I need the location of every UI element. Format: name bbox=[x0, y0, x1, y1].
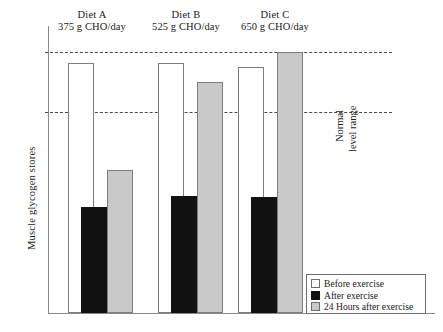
normal-level-range-line-2: level range bbox=[347, 106, 360, 152]
group-name: Diet A bbox=[50, 9, 134, 21]
chart-figure: Diet A 375 g CHO/day Diet B 525 g CHO/da… bbox=[0, 0, 443, 332]
bar-diet-b-24-hours-after-exercise bbox=[197, 82, 223, 313]
group-header-diet-c: Diet C 650 g CHO/day bbox=[233, 9, 317, 34]
normal-level-range-caption-second: level range bbox=[347, 106, 360, 152]
legend-label: Before exercise bbox=[324, 278, 384, 289]
bar-diet-c-24-hours-after-exercise bbox=[277, 52, 303, 313]
y-axis-title: Muscle glycogen stores bbox=[26, 146, 37, 250]
group-header-diet-a: Diet A 375 g CHO/day bbox=[50, 9, 134, 34]
group-dose: 650 g CHO/day bbox=[233, 21, 317, 33]
group-dose: 525 g CHO/day bbox=[144, 21, 228, 33]
normal-range-upper-line bbox=[45, 52, 392, 53]
bar-diet-a-24-hours-after-exercise bbox=[107, 170, 133, 313]
y-axis-line bbox=[48, 26, 49, 314]
legend-label: After exercise bbox=[324, 290, 378, 301]
group-header-diet-b: Diet B 525 g CHO/day bbox=[144, 9, 228, 34]
chart-legend: Before exercise After exercise 24 Hours … bbox=[306, 274, 426, 314]
legend-item-24-hours-after-exercise: 24 Hours after exercise bbox=[311, 301, 420, 313]
legend-item-before-exercise: Before exercise bbox=[311, 278, 420, 290]
legend-swatch-black-square-icon bbox=[311, 291, 320, 300]
bar-diet-c-after-exercise bbox=[251, 197, 277, 313]
legend-label: 24 Hours after exercise bbox=[324, 301, 413, 312]
group-name: Diet C bbox=[233, 9, 317, 21]
normal-level-range-line-1: Normal bbox=[334, 110, 347, 142]
legend-item-after-exercise: After exercise bbox=[311, 290, 420, 302]
legend-swatch-white-square-outline-icon bbox=[311, 279, 320, 288]
bar-diet-b-after-exercise bbox=[171, 196, 197, 313]
group-dose: 375 g CHO/day bbox=[50, 21, 134, 33]
bar-diet-a-after-exercise bbox=[81, 207, 107, 313]
normal-level-range-caption: Normal bbox=[334, 110, 347, 142]
group-name: Diet B bbox=[144, 9, 228, 21]
legend-swatch-gray-square-icon bbox=[311, 302, 320, 311]
